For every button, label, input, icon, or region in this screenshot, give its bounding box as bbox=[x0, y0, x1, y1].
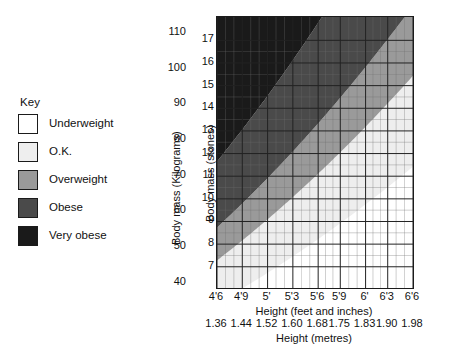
y-tick-kg-110: 110 bbox=[160, 26, 186, 37]
plot-area bbox=[216, 16, 414, 289]
y-tick-stones-12: 12 bbox=[198, 147, 214, 158]
x-tick-metres-8: 1.98 bbox=[392, 318, 432, 329]
y-tick-stones-8: 8 bbox=[198, 237, 214, 248]
y-tick-stones-17: 17 bbox=[198, 33, 214, 44]
y-axis-title-kilograms: Body mass (Kilograms) bbox=[170, 131, 182, 245]
y-tick-stones-13: 13 bbox=[198, 124, 214, 135]
y-tick-kg-100: 100 bbox=[160, 62, 186, 73]
y-tick-stones-16: 16 bbox=[198, 56, 214, 67]
y-tick-stones-11: 11 bbox=[198, 169, 214, 180]
bmi-band-plot bbox=[217, 17, 413, 288]
y-tick-kg-90: 90 bbox=[160, 97, 186, 108]
y-tick-stones-14: 14 bbox=[198, 101, 214, 112]
y-tick-stones-7: 7 bbox=[198, 260, 214, 271]
x-axis-title-metres: Height (metres) bbox=[216, 332, 412, 344]
bmi-chart: Body mass (Kilograms) Body mass (stones)… bbox=[0, 0, 449, 346]
y-tick-kg-80: 80 bbox=[160, 133, 186, 144]
y-tick-kg-40: 40 bbox=[160, 276, 186, 287]
y-tick-kg-70: 70 bbox=[160, 169, 186, 180]
x-axis-title-feet-inches: Height (feet and inches) bbox=[216, 305, 412, 317]
y-tick-kg-60: 60 bbox=[160, 204, 186, 215]
y-tick-stones-15: 15 bbox=[198, 79, 214, 90]
y-tick-stones-10: 10 bbox=[198, 192, 214, 203]
y-tick-kg-50: 50 bbox=[160, 240, 186, 251]
x-tick-feet-8: 6'6 bbox=[392, 291, 432, 302]
y-tick-stones-9: 9 bbox=[198, 214, 214, 225]
